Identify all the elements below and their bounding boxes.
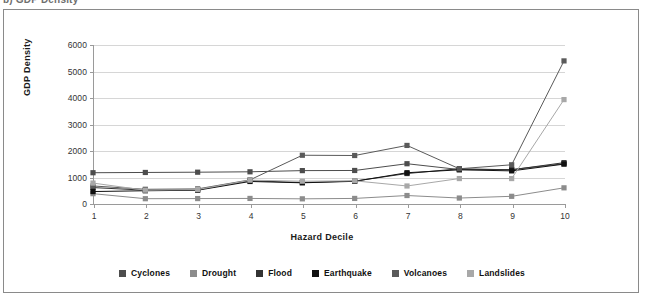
legend-item-flood[interactable]: Flood (256, 268, 292, 278)
data-point-marker (509, 194, 514, 199)
y-axis-title: GDP Density (22, 38, 32, 96)
x-axis-tick-label: 10 (553, 211, 577, 221)
series-line (93, 164, 564, 191)
data-point-marker (143, 196, 148, 201)
data-point-marker (195, 170, 200, 175)
legend-label: Flood (268, 268, 292, 278)
x-axis-tick-label: 4 (239, 211, 263, 221)
x-axis-title: Hazard Decile (4, 232, 640, 242)
x-axis-tick-label: 3 (187, 211, 211, 221)
data-point-marker (457, 176, 462, 181)
data-point-marker (561, 162, 566, 167)
data-point-marker (247, 196, 252, 201)
chart-legend: CyclonesDroughtFloodEarthquakeVolcanoesL… (4, 268, 640, 278)
data-point-marker (247, 169, 252, 174)
data-point-marker (300, 168, 305, 173)
x-axis-tick-label: 9 (501, 211, 525, 221)
legend-swatch-icon (467, 270, 474, 277)
data-point-marker (561, 58, 566, 63)
x-axis-tick-mark (199, 204, 200, 208)
series-line (93, 163, 564, 191)
data-point-marker (404, 161, 409, 166)
legend-item-earthquake[interactable]: Earthquake (312, 268, 372, 278)
data-point-marker (90, 189, 95, 194)
y-axis-tick-label: 1000 (53, 173, 87, 183)
legend-swatch-icon (392, 270, 399, 277)
x-axis-tick-mark (356, 204, 357, 208)
legend-swatch-icon (190, 270, 197, 277)
data-point-marker (300, 153, 305, 158)
data-point-marker (561, 97, 566, 102)
series-drought (90, 185, 566, 201)
data-point-marker (90, 180, 95, 185)
data-point-marker (457, 195, 462, 200)
data-point-marker (404, 143, 409, 148)
data-point-marker (90, 170, 95, 175)
data-point-marker (352, 178, 357, 183)
x-axis-tick-label: 1 (82, 211, 106, 221)
legend-swatch-icon (119, 270, 126, 277)
chart-figure-box: GDP Density Hazard Decile 01000200030004… (3, 9, 639, 293)
x-axis-tick-label: 7 (396, 211, 420, 221)
y-axis-tick-label: 3000 (53, 120, 87, 130)
legend-item-volcanoes[interactable]: Volcanoes (392, 268, 447, 278)
x-axis-tick-mark (408, 204, 409, 208)
x-axis-tick-label: 2 (134, 211, 158, 221)
x-axis-tick-mark (146, 204, 147, 208)
x-axis-tick-mark (94, 204, 95, 208)
legend-label: Earthquake (324, 268, 372, 278)
series-layer (93, 45, 564, 204)
series-line (93, 100, 564, 191)
y-axis-tick-label: 6000 (53, 40, 87, 50)
x-axis-tick-mark (460, 204, 461, 208)
data-point-marker (509, 176, 514, 181)
x-axis-tick-label: 6 (344, 211, 368, 221)
legend-label: Cyclones (131, 268, 170, 278)
data-point-marker (352, 196, 357, 201)
y-axis-tick-label: 5000 (53, 67, 87, 77)
series-volcanoes (90, 58, 566, 192)
series-cyclones (90, 161, 566, 175)
figure-page: b) GDP Density GDP Density Hazard Decile… (0, 0, 646, 300)
data-point-marker (143, 188, 148, 193)
series-landslides (90, 97, 566, 193)
data-point-marker (352, 153, 357, 158)
y-axis-tick-label: 2000 (53, 146, 87, 156)
y-axis-tick-label: 0 (53, 199, 87, 209)
legend-label: Landslides (479, 268, 525, 278)
data-point-marker (195, 196, 200, 201)
legend-item-cyclones[interactable]: Cyclones (119, 268, 170, 278)
data-point-marker (457, 166, 462, 171)
legend-item-landslides[interactable]: Landslides (467, 268, 525, 278)
figure-caption-strip: b) GDP Density (0, 0, 646, 9)
series-flood (90, 160, 566, 193)
data-point-marker (143, 170, 148, 175)
x-axis-tick-label: 5 (291, 211, 315, 221)
data-point-marker (404, 183, 409, 188)
legend-swatch-icon (312, 270, 319, 277)
data-point-marker (300, 179, 305, 184)
series-line (93, 164, 564, 173)
data-point-marker (352, 168, 357, 173)
x-axis-tick-label: 8 (448, 211, 472, 221)
data-point-marker (404, 170, 409, 175)
x-axis-tick-mark (251, 204, 252, 208)
data-point-marker (404, 193, 409, 198)
legend-swatch-icon (256, 270, 263, 277)
data-point-marker (300, 196, 305, 201)
x-axis-tick-mark (513, 204, 514, 208)
data-point-marker (509, 162, 514, 167)
data-point-marker (561, 185, 566, 190)
chart-plot-wrapper: GDP Density Hazard Decile 01000200030004… (4, 10, 640, 294)
data-point-marker (247, 178, 252, 183)
y-axis-tick-label: 4000 (53, 93, 87, 103)
data-point-marker (195, 187, 200, 192)
legend-item-drought[interactable]: Drought (190, 268, 236, 278)
x-axis-tick-mark (565, 204, 566, 208)
legend-label: Volcanoes (404, 268, 447, 278)
figure-caption: b) GDP Density (3, 0, 78, 5)
x-axis-tick-mark (303, 204, 304, 208)
legend-label: Drought (202, 268, 236, 278)
data-point-marker (509, 168, 514, 173)
